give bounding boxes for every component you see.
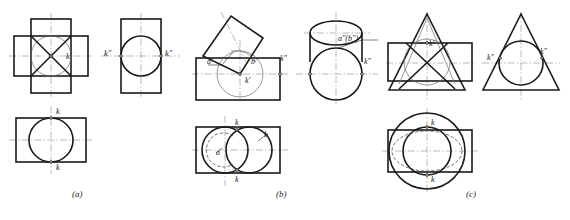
point-k-side-left xyxy=(120,55,123,58)
point-k-top-upper xyxy=(50,117,53,120)
label-a-prime: a' xyxy=(207,57,213,66)
label-k-prime: k' xyxy=(429,39,435,48)
point-k-top-lower xyxy=(236,169,239,172)
b-front-view: a' b' k' k" xyxy=(192,12,288,104)
point-k-top-upper xyxy=(426,126,429,129)
point-k-front xyxy=(50,55,52,57)
point-k-front xyxy=(426,42,429,45)
point-k-front xyxy=(239,73,242,76)
label-k-prime: k' xyxy=(66,51,72,61)
label-k-prime: k' xyxy=(245,76,251,85)
caption-c: (c) xyxy=(466,189,476,199)
label-k-double-prime-right: k" xyxy=(165,48,173,58)
point-k-side-left xyxy=(309,73,312,76)
point-k-side-right xyxy=(541,57,544,60)
label-k-double-prime-left: k" xyxy=(487,53,495,62)
a-front-view: k' xyxy=(9,13,92,99)
label-k-double-prime-left: k" xyxy=(104,48,112,58)
drawing-sheet: .thick{stroke:#1a1a1a;stroke-width:1.6;f… xyxy=(0,0,570,220)
tilted-axis-centerline xyxy=(221,12,246,62)
label-k-double-prime-side: k" xyxy=(364,57,372,66)
panel-a: k' k" k" k k xyxy=(9,13,180,174)
prism-outline xyxy=(388,43,472,81)
point-k-top-upper xyxy=(236,129,239,132)
point-k-top-lower xyxy=(426,174,429,177)
panel-c: k' k" k" xyxy=(382,12,560,192)
point-k-side-left xyxy=(499,57,502,60)
technical-drawing: .thick{stroke:#1a1a1a;stroke-width:1.6;f… xyxy=(0,0,570,220)
a-side-view: k" k" xyxy=(101,13,180,99)
label-a-b-double-prime: a"(b") xyxy=(338,34,358,43)
b-top-view: k b a k xyxy=(192,116,288,186)
c-front-view: k' xyxy=(386,12,476,100)
label-k-top-lower: k xyxy=(235,175,239,184)
caption-b: (b) xyxy=(276,189,287,199)
b-side-view: a"(b") k" xyxy=(296,12,378,104)
label-k-top-lower: k xyxy=(431,175,435,184)
panel-b: a' b' k' k" xyxy=(192,12,378,186)
label-a-top: a xyxy=(216,148,220,157)
a-top-view: k k xyxy=(9,106,92,174)
label-k-top-upper: k xyxy=(431,118,435,127)
caption-a: (a) xyxy=(72,189,83,199)
label-b-top: b xyxy=(264,130,268,139)
label-k-top-lower: k xyxy=(56,162,60,172)
point-k-edge xyxy=(279,73,282,76)
point-k-side-right xyxy=(361,73,364,76)
point-k-top-lower xyxy=(50,161,53,164)
label-b-prime: b' xyxy=(251,57,257,66)
label-k-top-upper: k xyxy=(56,106,60,116)
thin-cone-edge-right xyxy=(427,18,455,84)
label-k-double-prime-front: k" xyxy=(280,54,288,63)
c-side-view: k" k" xyxy=(482,12,560,100)
thin-cone-edge-left xyxy=(399,18,427,84)
point-k-side-right xyxy=(160,55,163,58)
label-k-top-upper: k xyxy=(235,118,239,127)
c-top-view: k k xyxy=(382,108,478,192)
label-k-double-prime-right: k" xyxy=(540,47,548,56)
